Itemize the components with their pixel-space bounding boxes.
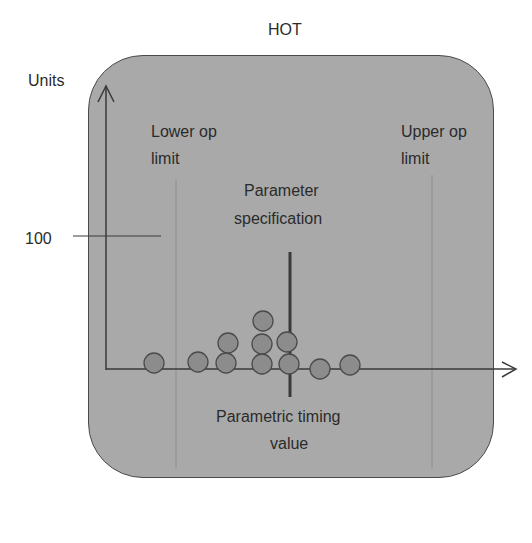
data-point bbox=[310, 359, 330, 379]
data-point bbox=[144, 353, 164, 373]
data-point bbox=[216, 353, 236, 373]
data-point bbox=[218, 333, 238, 353]
upper-limit-label-1: Upper op bbox=[401, 122, 467, 142]
data-point bbox=[279, 354, 299, 374]
lower-limit-label-2: limit bbox=[151, 149, 179, 169]
data-point bbox=[252, 354, 272, 374]
spec-label-2: specification bbox=[234, 209, 322, 229]
x-axis-label-1: Parametric timing bbox=[216, 407, 340, 427]
data-point bbox=[340, 355, 360, 375]
spec-label-1: Parameter bbox=[244, 181, 319, 201]
lower-limit-label-1: Lower op bbox=[151, 122, 217, 142]
upper-limit-label-2: limit bbox=[401, 149, 429, 169]
data-point bbox=[252, 334, 272, 354]
x-axis-label-2: value bbox=[270, 434, 308, 454]
data-point bbox=[277, 332, 297, 352]
diagram-lines bbox=[0, 0, 532, 543]
data-point bbox=[253, 311, 273, 331]
data-point bbox=[188, 352, 208, 372]
